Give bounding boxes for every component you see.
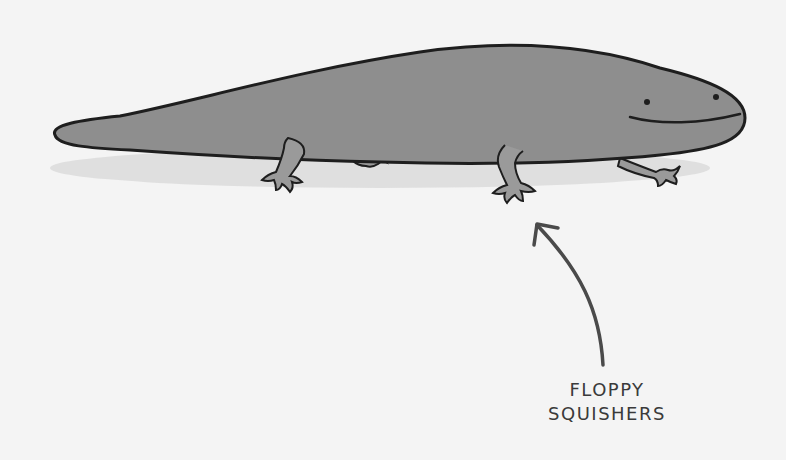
arrow-shaft: [537, 225, 603, 365]
left-eye: [644, 99, 650, 105]
caption-line-1: FLOPPY: [532, 378, 682, 402]
salamander-body: [54, 45, 745, 163]
caption: FLOPPY SQUISHERS: [532, 378, 682, 426]
right-eye: [713, 94, 719, 100]
caption-line-2: SQUISHERS: [532, 402, 682, 426]
